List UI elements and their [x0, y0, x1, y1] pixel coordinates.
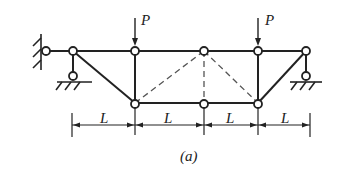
- dimension-label-1: L: [99, 110, 108, 126]
- roller-support-left: [56, 82, 92, 90]
- truss-diagram: P P L L L L (a): [0, 0, 346, 172]
- figure-caption: (a): [180, 148, 198, 165]
- truss-nodes: [42, 47, 310, 108]
- roller-support-right: [290, 82, 322, 90]
- load-arrow-right: P: [255, 12, 274, 46]
- load-label-left: P: [140, 12, 150, 28]
- load-arrow-left: P: [132, 12, 150, 46]
- dimension-label-3: L: [225, 110, 234, 126]
- dimension-label-4: L: [280, 110, 289, 126]
- dashed-members: [135, 51, 258, 103]
- solid-members: [46, 51, 306, 103]
- wall-support: [33, 34, 41, 70]
- dimension-label-2: L: [163, 110, 172, 126]
- load-label-right: P: [264, 12, 274, 28]
